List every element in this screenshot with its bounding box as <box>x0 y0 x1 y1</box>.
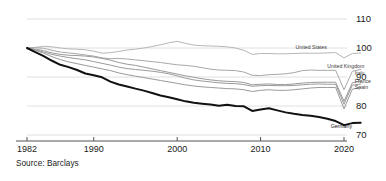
y-axis-tick-label: 80 <box>356 100 367 111</box>
x-axis-tick-label: 1982 <box>17 144 37 154</box>
series-line-spain <box>27 48 361 109</box>
series-label-united-states: United States <box>296 44 328 50</box>
x-axis-tick-label: 2000 <box>167 144 187 154</box>
x-axis-tick-label: 1990 <box>84 144 104 154</box>
series-label-spain: Spain <box>355 84 368 90</box>
x-axis-tick-label: 2010 <box>251 144 271 154</box>
source-note: Source: Barclays <box>16 159 79 168</box>
y-axis-tick-label: 110 <box>356 13 371 24</box>
series-label-france: France <box>355 78 371 84</box>
x-axis-tick-label: 2020 <box>334 144 354 154</box>
y-axis-tick-label: 100 <box>356 42 372 53</box>
chart-plot-area: 11010090807019821990200020102020United S… <box>0 0 386 181</box>
series-line-italy <box>27 48 361 101</box>
series-label-united-kingdom: United Kingdom <box>327 63 364 69</box>
series-line-germany <box>27 48 361 125</box>
series-line-france <box>27 48 361 104</box>
y-axis-tick-label: 70 <box>356 129 367 140</box>
series-label-germany: Germany <box>331 123 353 129</box>
series-line-united-kingdom <box>27 48 361 90</box>
series-label-italy: Italy <box>355 70 365 76</box>
line-chart-figure: 11010090807019821990200020102020United S… <box>0 0 386 181</box>
